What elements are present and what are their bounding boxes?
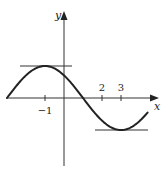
y-axis-arrow-icon — [61, 11, 68, 20]
tick-label-3: 3 — [118, 82, 124, 93]
tick-label-neg1: −1 — [38, 105, 53, 116]
y-axis-label: y — [54, 9, 62, 22]
tick-label-2: 2 — [99, 82, 105, 93]
function-graph: y x −1 2 3 — [0, 0, 168, 172]
x-axis-label: x — [154, 100, 161, 113]
